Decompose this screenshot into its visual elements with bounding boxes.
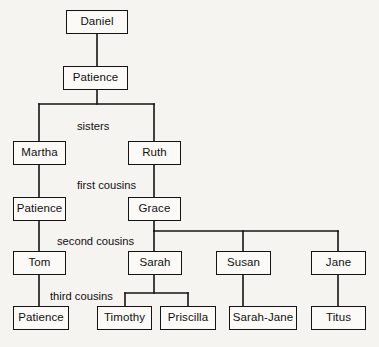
node-susan[interactable]: Susan xyxy=(216,251,271,275)
node-grace[interactable]: Grace xyxy=(128,197,181,221)
node-label: Daniel xyxy=(80,16,113,28)
edge-label-third-cousins: third cousins xyxy=(50,291,113,302)
node-label: Sarah xyxy=(139,257,170,269)
node-patience-gen2[interactable]: Patience xyxy=(63,66,128,90)
node-tom[interactable]: Tom xyxy=(13,251,66,275)
node-label: Patience xyxy=(17,203,63,215)
node-label: Grace xyxy=(139,203,171,215)
node-label: Susan xyxy=(227,257,260,269)
node-label: Sarah-Jane xyxy=(233,312,293,324)
node-titus[interactable]: Titus xyxy=(311,306,366,330)
edge-label-sisters: sisters xyxy=(77,121,109,132)
node-sarah-jane[interactable]: Sarah-Jane xyxy=(229,306,297,330)
node-label: Patience xyxy=(73,72,119,84)
node-label: Ruth xyxy=(142,147,167,159)
node-jane[interactable]: Jane xyxy=(311,251,366,275)
node-label: Priscilla xyxy=(168,312,209,324)
node-label: Timothy xyxy=(104,312,145,324)
node-label: Martha xyxy=(21,147,57,159)
node-patience-gen6[interactable]: Patience xyxy=(13,306,69,330)
node-label: Patience xyxy=(18,312,64,324)
node-priscilla[interactable]: Priscilla xyxy=(160,306,216,330)
node-label: Titus xyxy=(326,312,351,324)
family-tree-diagram: Daniel Patience Martha Ruth Patience Gra… xyxy=(0,0,379,347)
node-patience-gen4[interactable]: Patience xyxy=(13,197,66,221)
edge-label-second-cousins: second cousins xyxy=(57,236,134,247)
node-ruth[interactable]: Ruth xyxy=(128,141,181,165)
node-label: Jane xyxy=(326,257,351,269)
node-timothy[interactable]: Timothy xyxy=(97,306,152,330)
node-label: Tom xyxy=(28,257,50,269)
node-martha[interactable]: Martha xyxy=(13,141,66,165)
node-sarah[interactable]: Sarah xyxy=(128,251,182,275)
edge-label-first-cousins: first cousins xyxy=(77,180,136,191)
node-daniel[interactable]: Daniel xyxy=(66,10,128,34)
